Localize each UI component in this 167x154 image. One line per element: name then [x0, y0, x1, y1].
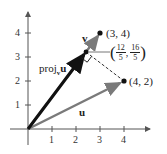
paren-close: ) — [140, 43, 146, 62]
point-3-4-label: (3, 4) — [106, 28, 130, 39]
fraction-x: 125 — [116, 43, 126, 62]
vector-u-label: u — [79, 107, 85, 118]
projection-label-main: proj — [39, 62, 57, 74]
vector-v-label: v — [82, 33, 88, 44]
fraction-y: 165 — [130, 43, 140, 62]
projection-label: projvu — [39, 63, 66, 77]
fraction-separator: , — [126, 47, 129, 58]
point-3-4 — [97, 30, 102, 35]
x-tick-label-3: 3 — [97, 135, 102, 145]
y-tick-label-2: 2 — [15, 76, 20, 86]
fraction-y-den: 5 — [133, 53, 137, 62]
y-tick-label-4: 4 — [15, 28, 20, 38]
point-4-2-label: (4, 2) — [129, 76, 153, 87]
y-tick-label-3: 3 — [15, 52, 20, 62]
x-tick-label-2: 2 — [73, 135, 78, 145]
point-4-2 — [121, 78, 126, 83]
fraction-x-den: 5 — [119, 53, 123, 62]
fraction-y-num: 16 — [130, 43, 140, 53]
x-tick-label-4: 4 — [121, 135, 126, 145]
point-proj-label: (125,165) — [110, 43, 146, 62]
fraction-x-num: 12 — [116, 43, 126, 53]
vector-u — [28, 83, 120, 129]
x-tick-label-1: 1 — [49, 135, 54, 145]
projection-label-tail: u — [60, 62, 66, 74]
y-tick-label-1: 1 — [15, 100, 20, 110]
point-proj — [84, 50, 89, 55]
